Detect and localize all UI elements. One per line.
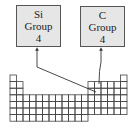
element-cell (108, 108, 115, 115)
element-cell (17, 88, 24, 95)
element-cell (88, 82, 95, 89)
element-cell (82, 101, 89, 108)
element-cell (108, 101, 115, 108)
element-cell (23, 101, 30, 108)
element-cell (121, 88, 128, 95)
element-cell (36, 108, 43, 115)
element-cell (17, 95, 24, 102)
silicon-arrow (37, 49, 96, 92)
element-cell (62, 95, 69, 102)
element-cell (121, 75, 128, 82)
element-cell (43, 108, 50, 115)
element-cell (30, 108, 37, 115)
element-cell (95, 101, 102, 108)
element-cell (30, 115, 37, 122)
element-cell (10, 115, 17, 122)
element-cell (23, 108, 30, 115)
element-cell (10, 108, 17, 115)
element-cell (101, 108, 108, 115)
element-cell (114, 95, 121, 102)
element-cell (95, 95, 102, 102)
element-cell (121, 108, 128, 115)
element-cell (82, 95, 89, 102)
element-cell (121, 101, 128, 108)
element-cell (88, 108, 95, 115)
element-cell (56, 95, 63, 102)
element-cell (10, 95, 17, 102)
element-cell (62, 108, 69, 115)
element-cell (114, 108, 121, 115)
element-cell (10, 88, 17, 95)
element-cell (121, 82, 128, 89)
element-cell (30, 101, 37, 108)
element-cell (30, 95, 37, 102)
element-cell (108, 88, 115, 95)
element-cell (82, 108, 89, 115)
element-cell (17, 115, 24, 122)
element-cell (36, 95, 43, 102)
element-cell (62, 115, 69, 122)
element-cell (36, 101, 43, 108)
element-cell (49, 101, 56, 108)
carbon-arrow (99, 49, 101, 84)
element-cell (88, 95, 95, 102)
element-cell (56, 101, 63, 108)
element-cell (75, 115, 82, 122)
periodic-table-diagram (0, 0, 133, 126)
element-cell (43, 95, 50, 102)
element-cell (62, 101, 69, 108)
element-cell (56, 108, 63, 115)
element-cell (95, 108, 102, 115)
element-cell (17, 101, 24, 108)
element-cell (88, 101, 95, 108)
element-cell (23, 95, 30, 102)
element-cell (101, 95, 108, 102)
element-cell (49, 115, 56, 122)
element-cell (10, 82, 17, 89)
element-cell (43, 101, 50, 108)
element-cell (75, 108, 82, 115)
element-cell (49, 95, 56, 102)
element-cell (101, 88, 108, 95)
element-cell (75, 95, 82, 102)
element-cell (108, 95, 115, 102)
element-cell (69, 108, 76, 115)
element-cell (114, 82, 121, 89)
element-cell (75, 101, 82, 108)
element-cell (36, 115, 43, 122)
element-cell (23, 115, 30, 122)
element-cell (69, 115, 76, 122)
element-cell (69, 101, 76, 108)
element-cell (56, 115, 63, 122)
element-cell (108, 82, 115, 89)
element-cell (17, 82, 24, 89)
element-cell (69, 95, 76, 102)
element-cell (82, 115, 89, 122)
element-cell (17, 108, 24, 115)
element-cell (43, 115, 50, 122)
element-cell (114, 101, 121, 108)
periodic-table-grid (10, 75, 127, 121)
element-cell (95, 82, 102, 89)
element-cell (101, 82, 108, 89)
element-cell (10, 101, 17, 108)
element-cell (101, 101, 108, 108)
element-cell (114, 88, 121, 95)
element-cell (10, 75, 17, 82)
element-cell (121, 95, 128, 102)
element-cell (49, 108, 56, 115)
